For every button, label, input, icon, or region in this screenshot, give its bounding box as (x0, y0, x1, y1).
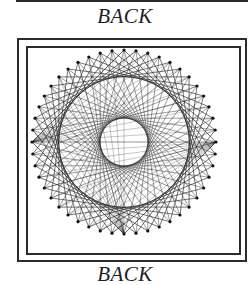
bottom-caption: BACK (0, 262, 250, 285)
